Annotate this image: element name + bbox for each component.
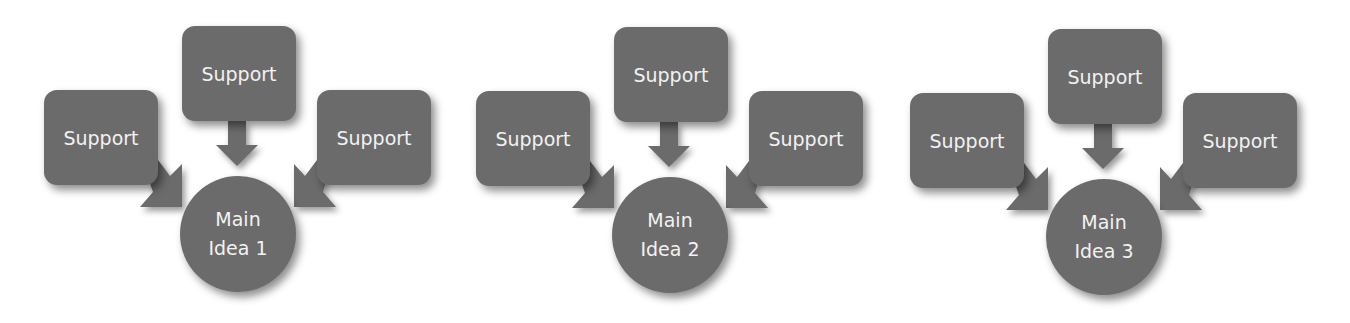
support-label: Support <box>768 128 843 150</box>
arrow-down-icon <box>216 121 258 166</box>
main-idea-line2: Idea 1 <box>208 234 267 263</box>
main-idea-group: Support Support Support Main Idea 2 <box>432 1 882 323</box>
main-idea-circle: Main Idea 2 <box>612 177 728 293</box>
arrow-down-icon <box>1082 124 1124 169</box>
support-label: Support <box>63 127 138 149</box>
main-idea-circle: Main Idea 1 <box>180 176 296 292</box>
support-box-left: Support <box>910 93 1024 188</box>
main-idea-group: Support Support Support Main Idea 1 <box>0 0 450 323</box>
arrow-down-icon <box>648 122 690 167</box>
support-box-top: Support <box>182 26 296 121</box>
support-box-right: Support <box>749 91 863 186</box>
support-box-left: Support <box>476 91 590 186</box>
main-idea-line1: Main <box>215 205 260 234</box>
main-idea-line2: Idea 3 <box>1074 237 1133 266</box>
support-box-top: Support <box>614 27 728 122</box>
main-idea-group: Support Support Support Main Idea 3 <box>866 3 1316 323</box>
main-idea-line1: Main <box>1081 208 1126 237</box>
support-label: Support <box>1202 130 1277 152</box>
support-box-top: Support <box>1048 29 1162 124</box>
support-label: Support <box>495 128 570 150</box>
support-label: Support <box>201 63 276 85</box>
main-idea-line2: Idea 2 <box>640 235 699 264</box>
support-box-right: Support <box>1183 93 1297 188</box>
support-box-left: Support <box>44 90 158 185</box>
support-label: Support <box>633 64 708 86</box>
support-label: Support <box>1067 66 1142 88</box>
support-label: Support <box>929 130 1004 152</box>
main-idea-line1: Main <box>647 206 692 235</box>
main-idea-circle: Main Idea 3 <box>1046 179 1162 295</box>
support-box-right: Support <box>317 90 431 185</box>
support-label: Support <box>336 127 411 149</box>
